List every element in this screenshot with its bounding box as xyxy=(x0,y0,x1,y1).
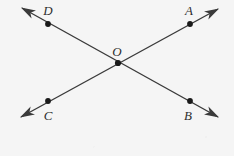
label-point-b: B xyxy=(184,109,192,122)
point-o xyxy=(115,60,121,66)
point-c xyxy=(45,98,51,104)
point-d xyxy=(45,21,51,27)
point-a xyxy=(187,21,193,27)
label-point-a: A xyxy=(185,4,193,17)
label-point-c: C xyxy=(44,109,53,122)
label-point-o: O xyxy=(112,45,121,58)
label-point-d: D xyxy=(43,4,52,17)
geometry-figure: D A O C B xyxy=(0,0,234,156)
point-b xyxy=(187,98,193,104)
diagram-canvas xyxy=(0,0,234,156)
